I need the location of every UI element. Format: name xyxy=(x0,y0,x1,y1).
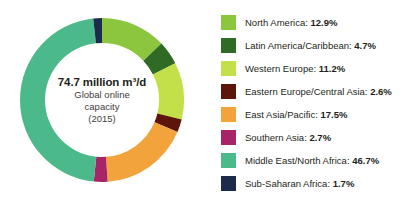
legend-value: 2.6% xyxy=(370,86,392,97)
donut-slice[interactable] xyxy=(106,122,178,181)
legend-item[interactable]: North America: 12.9% xyxy=(221,11,405,34)
legend-text: East Asia/Pacific: 17.5% xyxy=(245,109,347,120)
color-swatch-icon xyxy=(221,15,236,30)
legend-label: Western Europe: xyxy=(245,63,316,74)
legend-label: Latin America/Caribbean: xyxy=(245,40,352,51)
legend-label: Middle East/North Africa: xyxy=(245,155,350,166)
legend-text: Middle East/North Africa: 46.7% xyxy=(245,155,379,166)
legend-value: 12.9% xyxy=(310,17,337,28)
legend-value: 1.7% xyxy=(333,178,355,189)
legend-text: Sub-Saharan Africa: 1.7% xyxy=(245,178,354,189)
color-swatch-icon xyxy=(221,153,236,168)
legend-label: East Asia/Pacific: xyxy=(245,109,318,120)
legend-label: Sub-Saharan Africa: xyxy=(245,178,330,189)
legend-item[interactable]: East Asia/Pacific: 17.5% xyxy=(221,103,405,126)
donut-slice[interactable] xyxy=(20,18,96,181)
legend-text: Western Europe: 11.2% xyxy=(245,63,345,74)
legend-text: North America: 12.9% xyxy=(245,17,337,28)
color-swatch-icon xyxy=(221,130,236,145)
color-swatch-icon xyxy=(221,176,236,191)
legend-text: Latin America/Caribbean: 4.7% xyxy=(245,40,376,51)
donut-chart: 74.7 million m³/d Global online capacity… xyxy=(18,16,186,184)
legend-value: 2.7% xyxy=(309,132,331,143)
chart-legend: North America: 12.9%Latin America/Caribb… xyxy=(221,11,405,195)
color-swatch-icon xyxy=(221,107,236,122)
legend-text: Eastern Europe/Central Asia: 2.6% xyxy=(245,86,392,97)
legend-item[interactable]: Latin America/Caribbean: 4.7% xyxy=(221,34,405,57)
legend-value: 46.7% xyxy=(352,155,379,166)
donut-svg xyxy=(18,16,186,184)
color-swatch-icon xyxy=(221,38,236,53)
legend-value: 11.2% xyxy=(319,63,345,74)
legend-value: 4.7% xyxy=(354,40,376,51)
legend-item[interactable]: Sub-Saharan Africa: 1.7% xyxy=(221,172,405,195)
donut-slice-group xyxy=(20,18,184,182)
legend-item[interactable]: Eastern Europe/Central Asia: 2.6% xyxy=(221,80,405,103)
color-swatch-icon xyxy=(221,61,236,76)
legend-text: Southern Asia: 2.7% xyxy=(245,132,331,143)
legend-value: 17.5% xyxy=(321,109,348,120)
legend-label: Eastern Europe/Central Asia: xyxy=(245,86,368,97)
legend-item[interactable]: Middle East/North Africa: 46.7% xyxy=(221,149,405,172)
legend-item[interactable]: Southern Asia: 2.7% xyxy=(221,126,405,149)
color-swatch-icon xyxy=(221,84,236,99)
legend-item[interactable]: Western Europe: 11.2% xyxy=(221,57,405,80)
donut-chart-figure: 74.7 million m³/d Global online capacity… xyxy=(0,0,405,202)
legend-label: North America: xyxy=(245,17,308,28)
legend-label: Southern Asia: xyxy=(245,132,307,143)
